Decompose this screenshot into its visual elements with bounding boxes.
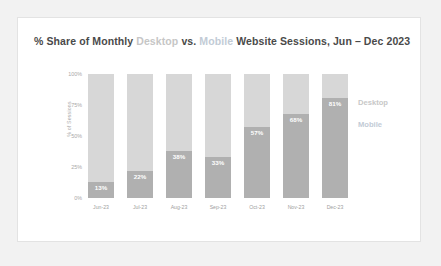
x-axis-tick: Nov-23 (276, 204, 316, 210)
bar-value-label: 57% (244, 129, 270, 136)
bar-group[interactable]: 81% (322, 74, 348, 198)
bar-segment-desktop[interactable] (322, 74, 348, 98)
y-axis-label: % of Sessions (66, 84, 72, 154)
bar-value-label: 22% (127, 173, 153, 180)
bar-segment-desktop[interactable] (88, 74, 114, 182)
bar-value-label: 13% (88, 184, 114, 191)
bar-segment-mobile[interactable]: 33% (205, 157, 231, 198)
chart-card: % Share of Monthly Desktop vs. Mobile We… (17, 17, 421, 242)
bar-segment-mobile[interactable]: 68% (283, 114, 309, 198)
chart-plot-area: % of Sessions 0%25%50%75%100% 13%Jun-232… (32, 68, 408, 226)
bar-value-label: 81% (322, 100, 348, 107)
bar-segment-desktop[interactable] (244, 74, 270, 127)
title-part-mobile: Mobile (199, 35, 233, 47)
title-part-desktop: Desktop (136, 35, 178, 47)
x-axis-tick: Jul-23 (120, 204, 160, 210)
legend-item-desktop: Desktop (358, 98, 388, 107)
bar-segment-mobile[interactable]: 38% (166, 151, 192, 198)
y-axis-tick: 50% (48, 133, 82, 139)
bar-group[interactable]: 13% (88, 74, 114, 198)
legend-item-mobile: Mobile (358, 120, 382, 129)
title-part-pre: % Share of Monthly (34, 35, 136, 47)
bar-group[interactable]: 22% (127, 74, 153, 198)
bar-segment-mobile[interactable]: 81% (322, 98, 348, 198)
bar-segment-mobile[interactable]: 57% (244, 127, 270, 198)
y-axis-tick: 75% (48, 102, 82, 108)
bar-segment-desktop[interactable] (283, 74, 309, 114)
bar-group[interactable]: 33% (205, 74, 231, 198)
bar-segment-mobile[interactable]: 13% (88, 182, 114, 198)
page-title: % Share of Monthly Desktop vs. Mobile We… (34, 35, 410, 47)
bars-container: 13%Jun-2322%Jul-2338%Aug-2333%Sep-2357%O… (88, 74, 348, 198)
bar-segment-desktop[interactable] (127, 74, 153, 171)
x-axis-tick: Dec-23 (315, 204, 355, 210)
title-part-post: Website Sessions, Jun – Dec 2023 (233, 35, 410, 47)
bar-segment-desktop[interactable] (166, 74, 192, 151)
bar-value-label: 38% (166, 153, 192, 160)
bar-group[interactable]: 68% (283, 74, 309, 198)
bar-value-label: 33% (205, 159, 231, 166)
bar-value-label: 68% (283, 116, 309, 123)
x-axis-tick: Sep-23 (198, 204, 238, 210)
x-axis-tick: Oct-23 (237, 204, 277, 210)
x-axis-tick: Jun-23 (81, 204, 121, 210)
x-axis-tick: Aug-23 (159, 204, 199, 210)
bar-group[interactable]: 57% (244, 74, 270, 198)
bar-group[interactable]: 38% (166, 74, 192, 198)
title-part-mid: vs. (178, 35, 199, 47)
y-axis-tick: 25% (48, 164, 82, 170)
y-axis-tick: 0% (48, 195, 82, 201)
y-axis-tick: 100% (48, 71, 82, 77)
bar-segment-desktop[interactable] (205, 74, 231, 157)
bar-segment-mobile[interactable]: 22% (127, 171, 153, 198)
